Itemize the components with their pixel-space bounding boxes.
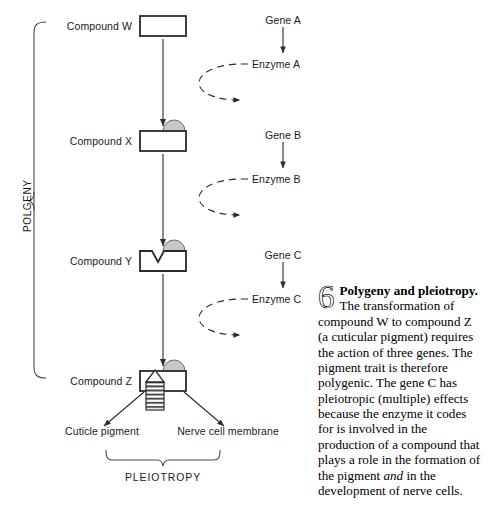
compound-w-label: Compound W (67, 20, 132, 32)
polygeny-label: POLGENY (22, 179, 33, 232)
feedback-loop-a (199, 64, 248, 100)
enzyme-c-label: Enzyme C (252, 293, 301, 305)
arrow-z-to-nerve-cell-membrane (184, 392, 224, 426)
gene-b-label: Gene B (265, 129, 301, 141)
feedback-loop-c (199, 299, 248, 335)
gene-c-label: Gene C (265, 249, 302, 261)
pleiotropy-label: PLEIOTROPY (125, 471, 201, 483)
figure-number: 6 (318, 284, 335, 311)
compound-z-label: Compound Z (70, 375, 132, 387)
figure-caption-lead: Polygeny and pleiotropy. (340, 283, 478, 298)
cuticle-pigment-label: Cuticle pigment (65, 425, 139, 437)
feedback-loop-b (199, 179, 248, 215)
figure-caption-emphasis: and (383, 468, 403, 483)
enzyme-b-label: Enzyme B (252, 173, 301, 185)
compound-y-label: Compound Y (70, 255, 132, 267)
enzyme-a-label: Enzyme A (252, 58, 300, 70)
pleiotropy-brace (106, 450, 220, 466)
figure-canvas: Compound W Compound X Compound Y Compoun… (0, 0, 489, 506)
compound-w-shape (140, 16, 186, 36)
arrow-z-to-cuticle-pigment (104, 392, 144, 426)
gene-a-label: Gene A (265, 14, 301, 26)
figure-caption-body-first: The transformation of compound W to comp… (318, 298, 480, 482)
compound-z-shape (140, 360, 186, 410)
compound-x-label: Compound X (70, 135, 132, 147)
figure-caption: 6Polygeny and pleiotropy. The transforma… (318, 283, 483, 498)
nerve-cell-membrane-label: Nerve cell membrane (177, 425, 279, 437)
